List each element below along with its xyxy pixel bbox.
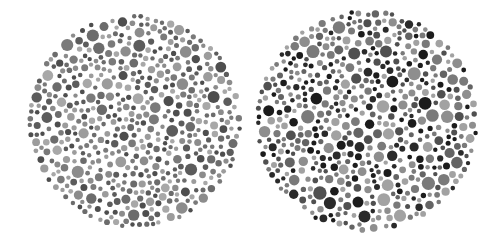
dot	[71, 201, 75, 205]
dot	[430, 65, 436, 71]
dot	[433, 73, 437, 77]
dot	[72, 75, 76, 79]
dot	[96, 100, 101, 105]
dot	[295, 145, 301, 151]
dot	[334, 172, 339, 177]
dot	[131, 200, 138, 207]
dot	[93, 145, 98, 150]
dot	[170, 139, 175, 144]
dot	[370, 224, 378, 232]
dot	[208, 46, 213, 51]
dot	[113, 172, 119, 178]
dot	[191, 34, 196, 39]
dot	[395, 195, 400, 200]
dot	[37, 79, 42, 84]
dot	[338, 114, 343, 119]
dot	[324, 197, 336, 209]
dot	[383, 121, 389, 127]
dot	[431, 85, 436, 90]
dot	[305, 177, 310, 182]
dot	[414, 34, 419, 39]
dot	[47, 92, 52, 97]
dot	[185, 29, 190, 34]
dot	[437, 90, 446, 99]
dot	[93, 85, 97, 89]
dot	[370, 112, 376, 118]
dot	[75, 37, 83, 45]
dot	[282, 143, 287, 148]
dot	[277, 73, 283, 79]
dot	[165, 161, 170, 166]
dot	[263, 82, 272, 91]
dot	[371, 209, 376, 214]
dot	[308, 186, 313, 191]
dot	[216, 105, 220, 109]
dot	[393, 59, 399, 65]
dot	[102, 60, 106, 64]
dot	[88, 57, 92, 61]
dot	[203, 181, 208, 186]
dot	[141, 120, 146, 125]
dot	[186, 122, 196, 132]
dot	[301, 187, 306, 192]
dot	[168, 145, 172, 149]
dot	[135, 85, 140, 90]
dot	[190, 117, 195, 122]
dot	[404, 126, 408, 130]
dot	[458, 174, 463, 179]
dot	[373, 26, 378, 31]
dot	[397, 24, 402, 29]
dot	[285, 45, 289, 49]
dot	[92, 133, 97, 138]
dot	[274, 62, 279, 67]
dot	[174, 198, 178, 202]
dot	[285, 172, 290, 177]
dot	[366, 58, 371, 63]
dot	[61, 164, 69, 172]
dot	[137, 195, 143, 201]
dot	[149, 207, 154, 212]
dot	[312, 155, 317, 160]
dot	[179, 138, 185, 144]
dot	[297, 78, 301, 82]
dot	[153, 194, 158, 199]
dot	[181, 72, 186, 77]
dot	[307, 147, 314, 154]
dot	[155, 63, 159, 67]
dot	[418, 164, 424, 170]
dot	[150, 24, 157, 31]
dot	[257, 115, 262, 120]
dot	[148, 66, 155, 73]
dot	[66, 85, 72, 91]
dot	[446, 45, 451, 50]
dot	[263, 95, 268, 100]
dot	[32, 92, 42, 102]
dot	[342, 108, 347, 113]
dot	[35, 110, 40, 115]
dot	[390, 12, 394, 16]
dot	[164, 136, 169, 141]
dot	[119, 71, 128, 80]
dot	[160, 125, 164, 129]
dot	[155, 188, 160, 193]
dot	[376, 93, 382, 99]
dot	[53, 94, 58, 99]
dot	[147, 174, 152, 179]
dot	[386, 215, 392, 221]
dot	[81, 151, 85, 155]
dot	[28, 123, 32, 127]
dot	[127, 36, 131, 40]
dot	[333, 94, 339, 100]
dot	[270, 66, 275, 71]
dot	[376, 79, 381, 84]
dot	[111, 119, 117, 125]
dot	[299, 37, 310, 48]
dot	[214, 51, 218, 55]
dot	[423, 27, 428, 32]
dot	[121, 145, 127, 151]
dot	[464, 154, 468, 158]
dot	[363, 19, 371, 27]
dot	[203, 120, 208, 125]
dot	[338, 89, 343, 94]
dot	[360, 111, 365, 116]
